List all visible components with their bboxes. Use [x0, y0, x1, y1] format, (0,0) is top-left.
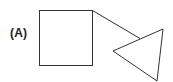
- square-shape: [40, 11, 93, 66]
- diagram-canvas: [0, 0, 173, 82]
- connector-line: [93, 11, 141, 39]
